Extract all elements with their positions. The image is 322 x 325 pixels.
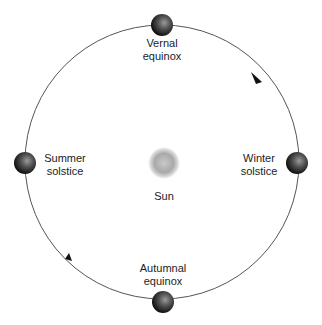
- label-line: solstice: [234, 165, 284, 178]
- label-autumnal-equinox: Autumnal equinox: [132, 262, 194, 288]
- earth-icon-autumnal: [152, 291, 174, 313]
- earth-icon-vernal: [151, 14, 173, 36]
- label-sun: Sun: [144, 190, 184, 203]
- label-winter-solstice: Winter solstice: [234, 152, 284, 178]
- label-line: equinox: [132, 275, 194, 288]
- orbit-arrow-upper-right: [251, 72, 262, 84]
- label-summer-solstice: Summer solstice: [41, 152, 89, 178]
- label-line: Autumnal: [132, 262, 194, 275]
- sun-icon: [148, 147, 180, 179]
- label-line: solstice: [41, 165, 89, 178]
- label-line: Winter: [234, 152, 284, 165]
- earth-icon-winter: [286, 152, 308, 174]
- label-vernal-equinox: Vernal equinox: [132, 37, 192, 63]
- label-line: equinox: [132, 50, 192, 63]
- label-line: Summer: [41, 152, 89, 165]
- label-line: Vernal: [132, 37, 192, 50]
- earth-icon-summer: [14, 152, 36, 174]
